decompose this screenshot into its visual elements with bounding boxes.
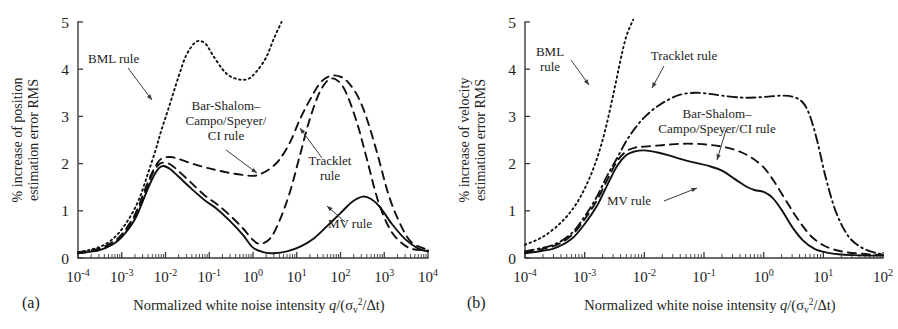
y-tick-label: 5 — [508, 14, 516, 31]
bml-rule-label: BML rule — [88, 51, 139, 66]
chart-panel-b: 01234510-410-310-210-1100101102BMLruleTr… — [449, 0, 898, 329]
panel-letter: (b) — [467, 294, 486, 312]
y-tick-label: 3 — [508, 108, 516, 125]
y-axis-title: % increase of velocityestimation error R… — [457, 78, 488, 203]
x-tick-label: 10-2 — [154, 267, 177, 285]
leader-arrowhead — [584, 79, 589, 85]
x-axis-title: Normalized white noise intensity q/(σv2/… — [584, 297, 836, 315]
y-tick-label: 0 — [61, 250, 69, 267]
y-axis-title: % increase of positionestimation error R… — [10, 78, 41, 203]
figure-container: 01234510-410-310-210-1100101102103104BML… — [0, 0, 898, 329]
mv-rule-label: MV rule — [607, 193, 651, 208]
x-tick-label: 103 — [374, 267, 394, 285]
y-tick-label: 3 — [61, 108, 69, 125]
annotations: BML ruleBar-Shalom–Campo/Speyer/CI ruleT… — [88, 51, 372, 231]
tracklet-rule-label: Tracklet rule — [651, 48, 718, 63]
leader-arrowhead — [652, 82, 657, 88]
chart-panel-a: 01234510-410-310-210-1100101102103104BML… — [0, 0, 449, 329]
leader-arrowhead — [300, 128, 305, 134]
x-tick-label: 100 — [754, 267, 774, 285]
leader-arrowhead — [147, 94, 152, 100]
x-tick-label: 102 — [331, 267, 351, 285]
y-tick-label: 0 — [508, 250, 516, 267]
x-tick-label: 104 — [418, 267, 438, 285]
x-tick-label: 100 — [243, 267, 263, 285]
y-tick-label: 4 — [61, 61, 69, 78]
bml-rule-label: BMLrule — [536, 44, 564, 74]
x-tick-labels: 10-410-310-210-1100101102103104 — [66, 267, 438, 285]
series-mv-rule — [525, 150, 883, 255]
bar-shalom-label: Bar-Shalom–Campo/Speyer/CI rule — [186, 98, 267, 143]
y-tick-label: 2 — [61, 155, 69, 172]
mv-rule-label: MV rule — [328, 216, 372, 231]
x-tick-label: 10-3 — [573, 267, 596, 285]
bar-shalom-label: Bar-Shalom–Campo/Speyer/CI rule — [658, 106, 776, 136]
y-tick-label: 1 — [508, 202, 516, 219]
panel-letter: (a) — [22, 294, 40, 312]
x-tick-label: 10-2 — [633, 267, 656, 285]
x-tick-label: 101 — [813, 267, 833, 285]
x-tick-labels: 10-410-310-210-1100101102 — [513, 267, 893, 285]
y-axis-ticks: 012345 — [508, 14, 530, 267]
y-tick-label: 5 — [61, 14, 69, 31]
leader-arrowhead — [691, 188, 697, 192]
y-axis-ticks: 012345 — [61, 14, 83, 267]
x-axis-ticks — [78, 252, 428, 258]
x-tick-label: 102 — [873, 267, 893, 285]
x-tick-label: 10-1 — [198, 267, 221, 285]
x-tick-label: 10-4 — [513, 267, 536, 285]
x-tick-label: 101 — [287, 267, 307, 285]
chart-svg-a: 01234510-410-310-210-1100101102103104BML… — [0, 0, 449, 329]
tracklet-rule-label: Trackletrule — [309, 153, 352, 183]
y-tick-label: 2 — [508, 155, 516, 172]
y-tick-label: 4 — [508, 61, 516, 78]
x-tick-label: 10-4 — [66, 267, 89, 285]
leader-arrowhead — [251, 168, 257, 173]
chart-svg-b: 01234510-410-310-210-1100101102BMLruleTr… — [449, 0, 898, 329]
x-tick-label: 10-1 — [692, 267, 715, 285]
x-tick-label: 10-3 — [110, 267, 133, 285]
leader-arrowhead — [716, 154, 720, 160]
x-axis-title: Normalized white noise intensity q/(σv2/… — [133, 297, 385, 315]
y-tick-label: 1 — [61, 202, 69, 219]
